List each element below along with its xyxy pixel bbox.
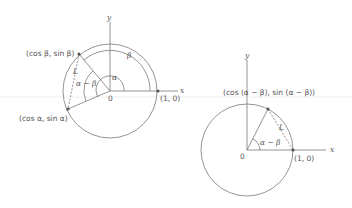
left-x-axis-label: x — [180, 87, 184, 95]
right-angle-arc — [253, 139, 260, 150]
right-point-unit-label: (1, 0) — [294, 155, 314, 163]
left-y-axis-label: y — [107, 14, 111, 22]
diagram-canvas — [0, 0, 352, 208]
right-origin-label: 0 — [240, 153, 245, 161]
alpha-angle-label: α — [112, 74, 117, 82]
right-point-diff — [266, 107, 269, 110]
left-origin-label: 0 — [108, 95, 113, 103]
point-alpha-label: (cos α, sin α) — [19, 115, 68, 123]
point-beta-label: (cos β, sin β) — [26, 50, 74, 58]
left-point-beta — [77, 52, 80, 55]
left-radius-alpha — [68, 91, 110, 109]
right-y-axis-label: y — [245, 52, 249, 60]
right-unit-circle-figure — [201, 60, 326, 196]
right-point-unit — [291, 148, 294, 151]
left-chord-L-label: L — [73, 68, 78, 76]
left-alpha-minus-beta-label: α − β — [76, 80, 96, 88]
right-chord-L-label: L — [279, 124, 284, 132]
beta-angle-label: β — [127, 52, 131, 60]
right-alpha-minus-beta-label: α − β — [260, 139, 280, 147]
left-point-unit-label: (1, 0) — [160, 95, 180, 103]
left-point-unit — [156, 89, 159, 92]
right-x-axis-label: x — [330, 146, 334, 154]
left-point-alpha — [66, 107, 69, 110]
point-diff-label: (cos (α − β), sin (α − β)) — [223, 89, 315, 97]
